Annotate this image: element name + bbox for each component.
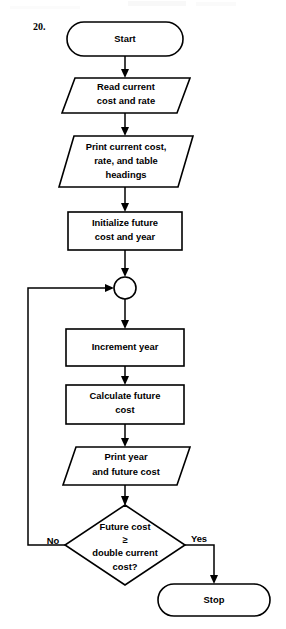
branch-label-yes: Yes: [191, 533, 207, 544]
decision-label-line4: cost?: [112, 561, 137, 572]
stop-terminator[interactable]: Stop: [158, 584, 270, 616]
decision-label-operator: ≥: [122, 534, 127, 545]
print-year-and-cost-label-line1: Print year: [104, 451, 148, 462]
arrowhead-connector: [121, 268, 129, 277]
decision-label-line1: Future cost: [99, 521, 150, 532]
arrowhead-stop: [210, 575, 218, 584]
flowchart-figure: 20.: [0, 0, 286, 629]
loop-connector-node[interactable]: [114, 277, 136, 299]
print-year-and-cost-node[interactable]: Print year and future cost: [63, 447, 190, 485]
stop-terminator-label: Stop: [204, 594, 225, 605]
initialize-label-line2: cost and year: [95, 231, 156, 242]
calculate-future-cost-node[interactable]: Calculate future cost: [66, 385, 184, 424]
decision-node[interactable]: Future cost ≥ double current cost?: [65, 505, 185, 585]
print-headings-label-line3: headings: [105, 169, 146, 180]
initialize-label-line1: Initialize future: [92, 217, 158, 228]
read-input-label-line2: cost and rate: [97, 95, 155, 106]
flowchart-canvas: 20.: [0, 0, 286, 629]
print-headings-node[interactable]: Print current cost, rate, and table head…: [59, 136, 193, 187]
item-number-label: 20.: [33, 21, 46, 32]
increment-year-node[interactable]: Increment year: [66, 329, 184, 366]
arrowhead-calculate-cost: [121, 376, 129, 385]
start-terminator[interactable]: Start: [67, 22, 183, 56]
arrowhead-print-headings: [121, 127, 129, 136]
print-headings-label-line2: rate, and table: [94, 155, 158, 166]
read-input-label-line1: Read current: [97, 81, 155, 92]
read-input-node[interactable]: Read current cost and rate: [62, 78, 190, 113]
calculate-future-cost-label-line1: Calculate future: [90, 390, 161, 401]
increment-year-label: Increment year: [92, 341, 159, 352]
arrowhead-increment-year: [121, 320, 129, 329]
arrowhead-loopback: [105, 284, 114, 292]
calculate-future-cost-label-line2: cost: [115, 404, 134, 415]
arrowhead-read-input: [121, 69, 129, 78]
print-year-and-cost-label-line2: and future cost: [92, 466, 160, 477]
branch-label-no: No: [47, 535, 60, 546]
initialize-node[interactable]: Initialize future cost and year: [68, 212, 182, 250]
start-terminator-label: Start: [114, 33, 135, 44]
arrowhead-print-year-cost: [121, 438, 129, 447]
loop-connector-shape: [114, 277, 136, 299]
decision-label-line3: double current: [92, 547, 158, 558]
arrowhead-initialize: [121, 203, 129, 212]
flowline-yes-to-stop: [185, 545, 214, 578]
print-headings-label-line1: Print current cost,: [86, 141, 167, 152]
